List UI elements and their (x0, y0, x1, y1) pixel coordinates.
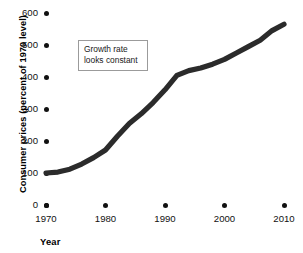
x-axis-title: Year (40, 236, 61, 247)
x-tick-dot-2000 (222, 203, 227, 208)
x-tick-dot-1980 (103, 203, 108, 208)
x-tick-label-2000: 2000 (203, 213, 247, 224)
annotation-growth-rate: Growth rate looks constant (78, 40, 148, 71)
x-tick-dot-2010 (282, 203, 287, 208)
x-tick-label-1970: 1970 (24, 213, 68, 224)
x-tick-dot-1970 (44, 203, 49, 208)
x-tick-label-1980: 1980 (84, 213, 128, 224)
x-tick-label-2010: 2010 (262, 213, 303, 224)
annotation-line-2: looks constant (84, 55, 143, 66)
x-tick-label-1990: 1990 (143, 213, 187, 224)
x-tick-dot-1990 (163, 203, 168, 208)
annotation-line-1: Growth rate (84, 44, 143, 55)
chart-figure: Consumer prices (percent of 1970 level) … (0, 0, 303, 253)
